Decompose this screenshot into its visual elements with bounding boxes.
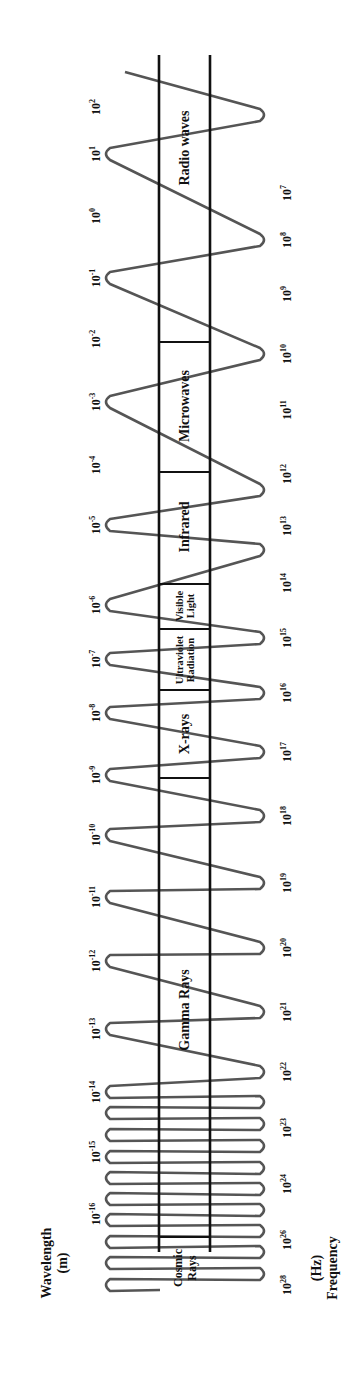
wavelength-tick: 102 <box>88 99 104 115</box>
wavelength-label: Wavelength <box>39 1228 55 1299</box>
frequency-tick: 107 <box>279 185 295 201</box>
frequency-label: Frequency <box>325 1236 341 1300</box>
frequency-tick: 1015 <box>279 628 295 648</box>
frequency-tick: 1010 <box>279 344 295 364</box>
frequency-tick: 1028 <box>279 1275 295 1295</box>
frequency-tick: 1024 <box>279 1174 295 1194</box>
frequency-tick: 1023 <box>279 1118 295 1138</box>
wavelength-tick: 10-14 <box>88 1081 104 1104</box>
band-label-visible-light: Visible Light <box>174 591 196 622</box>
wavelength-tick: 10-8 <box>88 704 104 723</box>
wavelength-axis-title: Wavelength (m) <box>39 1228 71 1299</box>
wavelength-tick: 100 <box>88 208 104 224</box>
band-label-infrared: Infrared <box>177 501 193 552</box>
visible-line1: Visible <box>174 591 185 622</box>
band-label-cosmic-rays: Cosmic Rays <box>171 1249 199 1287</box>
band-label-ultraviolet: Ultraviolet Radiation <box>174 636 196 684</box>
frequency-tick: 1020 <box>279 938 295 958</box>
frequency-tick: 1021 <box>279 1002 295 1022</box>
cosmic-line2: Rays <box>185 1249 199 1287</box>
wavelength-tick: 10-11 <box>88 886 104 908</box>
cosmic-line1: Cosmic <box>171 1249 185 1287</box>
visible-line2: Light <box>185 591 196 622</box>
wavelength-tick: 10-12 <box>88 950 104 973</box>
wavelength-tick: 10-1 <box>88 269 104 288</box>
wavelength-tick: 10-4 <box>88 456 104 475</box>
frequency-tick: 1026 <box>279 1230 295 1250</box>
wavelength-tick: 101 <box>88 146 104 162</box>
frequency-unit: (Hz) <box>309 1236 325 1300</box>
frequency-tick: 1013 <box>279 516 295 536</box>
band-label-gamma-rays: Gamma Rays <box>177 969 193 1050</box>
wavelength-tick: 10-9 <box>88 766 104 785</box>
uv-line2: Radiation <box>185 636 196 684</box>
frequency-tick: 1016 <box>279 683 295 703</box>
wavelength-tick: 10-5 <box>88 516 104 535</box>
wavelength-tick: 10-16 <box>88 1203 104 1226</box>
wavelength-unit: (m) <box>55 1228 71 1299</box>
frequency-axis-title: (Hz) Frequency <box>309 1236 341 1300</box>
frequency-tick: 1014 <box>279 573 295 593</box>
wavelength-tick: 10-15 <box>88 1141 104 1164</box>
band-label-x-rays: X-rays <box>177 714 193 754</box>
wavelength-tick: 10-6 <box>88 596 104 615</box>
uv-line1: Ultraviolet <box>174 636 185 684</box>
wavelength-tick: 10-3 <box>88 393 104 412</box>
frequency-tick: 1012 <box>279 464 295 484</box>
frequency-tick: 1019 <box>279 873 295 893</box>
em-spectrum-diagram: Radio waves Microwaves Infrared Visible … <box>0 0 353 1383</box>
wave-graphic <box>0 0 353 1383</box>
wavelength-tick: 10-10 <box>88 824 104 847</box>
band-label-microwaves: Microwaves <box>177 370 193 442</box>
frequency-tick: 109 <box>279 286 295 302</box>
band-dividers <box>159 342 210 1237</box>
frequency-tick: 1011 <box>279 400 295 420</box>
wavelength-tick: 10-13 <box>88 1018 104 1041</box>
frequency-tick: 108 <box>279 232 295 248</box>
frequency-tick: 1017 <box>279 742 295 762</box>
frequency-tick: 1018 <box>279 806 295 826</box>
wavelength-tick: 10-7 <box>88 650 104 669</box>
band-label-radio-waves: Radio waves <box>177 110 193 185</box>
frequency-tick: 1022 <box>279 1062 295 1082</box>
wavelength-tick: 10-2 <box>88 330 104 349</box>
